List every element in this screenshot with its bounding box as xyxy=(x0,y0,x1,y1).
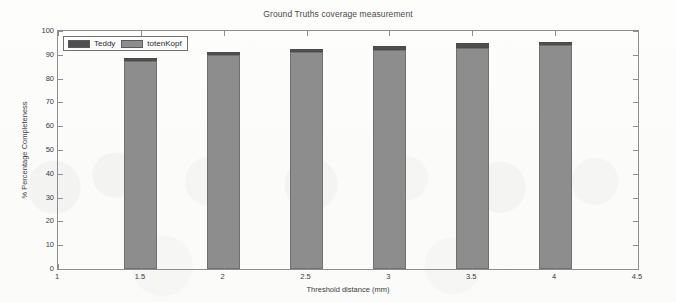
x-tick-mark xyxy=(389,31,390,36)
x-tick-mark xyxy=(58,264,59,269)
x-axis-label: Threshold distance (mm) xyxy=(57,285,639,294)
y-tick-mark xyxy=(633,174,638,175)
x-tick-label: 3 xyxy=(368,272,408,281)
y-tick-mark xyxy=(633,269,638,270)
y-tick-label: 50 xyxy=(14,145,54,154)
x-tick-label: 2 xyxy=(203,272,243,281)
legend-entry-totenkopf: totenKopf xyxy=(121,39,181,48)
y-tick-label: 30 xyxy=(14,192,54,201)
x-tick-mark xyxy=(389,264,390,269)
x-tick-label: 1.5 xyxy=(120,272,160,281)
y-tick-mark xyxy=(58,150,63,151)
chart-title: Ground Truths coverage measurement xyxy=(0,9,676,19)
x-tick-label: 2.5 xyxy=(286,272,326,281)
y-tick-mark xyxy=(58,174,63,175)
y-tick-mark xyxy=(633,126,638,127)
bar-segment-totenkopf xyxy=(290,52,323,269)
y-tick-label: 90 xyxy=(14,49,54,58)
y-tick-mark xyxy=(58,102,63,103)
y-tick-mark xyxy=(633,198,638,199)
x-tick-mark xyxy=(307,264,308,269)
legend-label-totenkopf: totenKopf xyxy=(147,39,181,48)
y-tick-label: 70 xyxy=(14,97,54,106)
bar-group xyxy=(207,52,240,269)
y-tick-label: 100 xyxy=(14,26,54,35)
bar-segment-totenkopf xyxy=(207,55,240,269)
x-tick-mark xyxy=(307,31,308,36)
y-tick-label: 20 xyxy=(14,216,54,225)
bar-segment-totenkopf xyxy=(539,45,572,269)
x-tick-mark xyxy=(58,31,59,36)
y-tick-mark xyxy=(58,79,63,80)
bar-segment-teddy xyxy=(456,43,489,47)
legend-label-teddy: Teddy xyxy=(94,39,115,48)
x-tick-mark xyxy=(555,264,556,269)
x-tick-mark xyxy=(555,31,556,36)
legend-swatch-teddy-icon xyxy=(68,40,90,48)
x-tick-label: 1 xyxy=(37,272,77,281)
x-tick-mark xyxy=(472,264,473,269)
y-tick-mark xyxy=(58,126,63,127)
y-tick-mark xyxy=(58,269,63,270)
chart-figure: Ground Truths coverage measurement % Per… xyxy=(0,0,676,302)
x-tick-mark xyxy=(638,31,639,36)
plot-area xyxy=(57,30,639,270)
bar-segment-teddy xyxy=(373,46,406,50)
y-tick-mark xyxy=(633,79,638,80)
legend-entry-teddy: Teddy xyxy=(68,39,115,48)
bar-group xyxy=(373,46,406,269)
bar-group xyxy=(124,58,157,269)
chart-legend: Teddy totenKopf xyxy=(63,36,188,51)
bar-group xyxy=(539,42,572,269)
y-tick-label: 10 xyxy=(14,240,54,249)
bar-segment-teddy xyxy=(290,49,323,53)
y-tick-mark xyxy=(633,150,638,151)
y-tick-mark xyxy=(58,245,63,246)
y-tick-mark xyxy=(633,221,638,222)
x-tick-mark xyxy=(638,264,639,269)
y-tick-label: 40 xyxy=(14,168,54,177)
x-tick-label: 4.5 xyxy=(617,272,657,281)
bar-group xyxy=(290,49,323,269)
y-tick-mark xyxy=(58,221,63,222)
x-tick-label: 3.5 xyxy=(451,272,491,281)
y-tick-mark xyxy=(58,198,63,199)
x-tick-mark xyxy=(472,31,473,36)
x-tick-mark xyxy=(141,264,142,269)
bar-segment-totenkopf xyxy=(124,61,157,269)
bar-group xyxy=(456,43,489,269)
bar-segment-totenkopf xyxy=(373,50,406,269)
y-tick-mark xyxy=(58,55,63,56)
x-tick-mark xyxy=(224,31,225,36)
bar-segment-totenkopf xyxy=(456,48,489,269)
y-tick-label: 80 xyxy=(14,73,54,82)
y-tick-mark xyxy=(633,102,638,103)
y-tick-label: 60 xyxy=(14,121,54,130)
y-tick-mark xyxy=(633,245,638,246)
bar-segment-teddy xyxy=(124,58,157,60)
bar-segment-teddy xyxy=(539,42,572,46)
x-tick-mark xyxy=(224,264,225,269)
bar-segment-teddy xyxy=(207,52,240,54)
x-tick-label: 4 xyxy=(534,272,574,281)
legend-swatch-totenkopf-icon xyxy=(121,40,143,48)
y-tick-mark xyxy=(633,55,638,56)
